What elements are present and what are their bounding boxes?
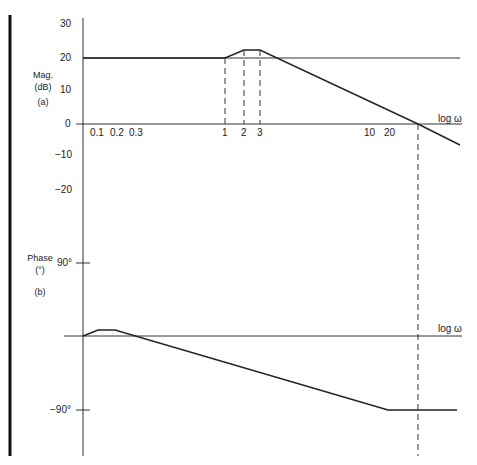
- mag-ylabel-line1: Mag.: [28, 71, 58, 80]
- mag-ylabel-line2: (dB): [28, 83, 58, 92]
- mag-xtick-3: 3: [257, 128, 263, 138]
- mag-ytick-m10: −10: [55, 150, 72, 160]
- bode-plot-canvas: [0, 0, 477, 465]
- mag-xtick-0.3: 0.3: [129, 128, 143, 138]
- phase-xaxis-label: log ω: [438, 324, 462, 334]
- phase-asymptote: [83, 330, 457, 410]
- mag-xtick-0.2: 0.2: [110, 128, 124, 138]
- phase-ylabel-line1: Phase: [24, 254, 56, 263]
- mag-ytick-0: 0: [65, 119, 71, 129]
- mag-xtick-2: 2: [241, 128, 247, 138]
- mag-ytick-10: 10: [60, 85, 71, 95]
- phase-ytick-m90: −90°: [50, 405, 71, 415]
- mag-panel-label: (a): [28, 98, 58, 107]
- mag-ytick-m20: −20: [55, 185, 72, 195]
- mag-xaxis-label: log ω: [438, 114, 462, 124]
- mag-xtick-10: 10: [364, 128, 375, 138]
- mag-xtick-0.1: 0.1: [90, 128, 104, 138]
- phase-ytick-90: 90°: [57, 258, 72, 268]
- mag-ytick-30: 30: [60, 19, 71, 29]
- phase-ylabel-line2: (°): [24, 266, 56, 275]
- phase-panel-label: (b): [24, 288, 56, 297]
- mag-ytick-20: 20: [60, 53, 71, 63]
- mag-xtick-20: 20: [384, 128, 395, 138]
- mag-xtick-1: 1: [222, 128, 228, 138]
